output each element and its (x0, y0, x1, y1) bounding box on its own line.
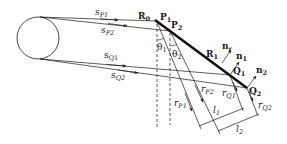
label-sP2: sP2 (101, 25, 114, 37)
label-R0: R0 (138, 11, 150, 23)
label-rP1: rP1 (174, 98, 187, 110)
label-rQ1: rQ1 (222, 88, 236, 100)
label-nr: nr (222, 41, 233, 53)
label-l2: l2 (236, 124, 243, 136)
refracted-rays (157, 22, 258, 134)
label-sQ2: sQ2 (111, 70, 125, 82)
label-sP1: sP1 (95, 7, 108, 19)
label-rP2: rP2 (201, 84, 214, 96)
label-theta1: θ1 (157, 42, 167, 54)
dimension-lines (199, 108, 259, 131)
reflecting-surface (155, 20, 247, 88)
label-P2: P2 (171, 20, 182, 32)
label-Q1: Q1 (233, 66, 245, 78)
diagram-canvas: R0 P1 P2 R1 nr n1 n2 Q1 Q2 sP1 sP2 sQ1 s… (0, 0, 287, 144)
incident-rays-q (40, 59, 247, 88)
label-n2: n2 (256, 65, 267, 77)
label-l1: l1 (213, 105, 220, 117)
label-rQ2: rQ2 (258, 100, 272, 112)
labels: R0 P1 P2 R1 nr n1 n2 Q1 Q2 sP1 sP2 sQ1 s… (95, 7, 272, 136)
label-sQ1: sQ1 (104, 50, 118, 62)
label-theta2: θ2 (172, 49, 182, 61)
source-circle (17, 17, 59, 59)
label-P1: P1 (160, 12, 171, 24)
label-n1: n1 (236, 51, 247, 63)
